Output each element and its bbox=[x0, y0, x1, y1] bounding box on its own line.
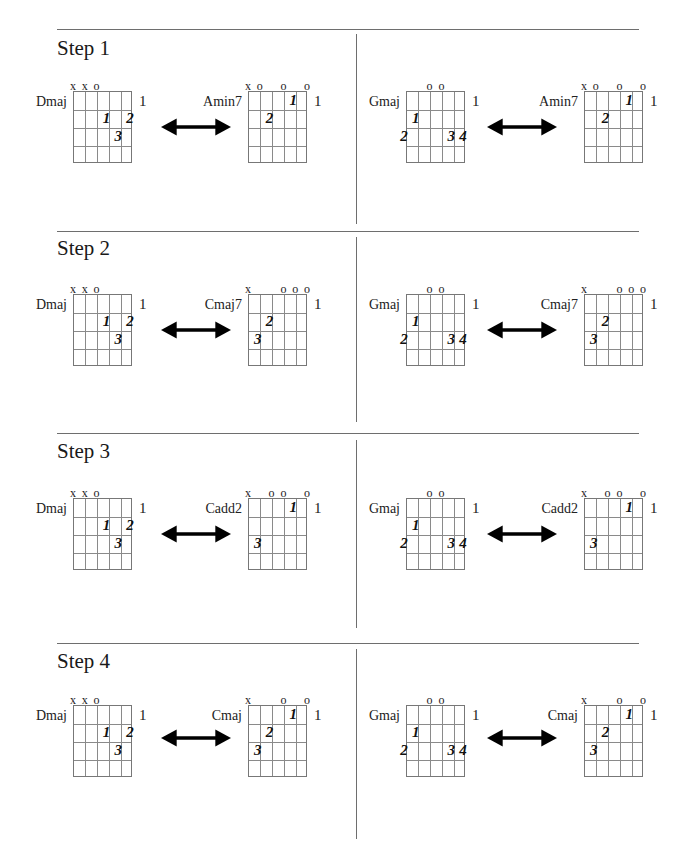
fret-line bbox=[585, 553, 642, 554]
open-string-marker: o bbox=[438, 487, 444, 499]
fret-line bbox=[249, 760, 306, 761]
fret-line bbox=[249, 110, 306, 111]
fret-line bbox=[585, 146, 642, 147]
fret-line bbox=[407, 331, 464, 332]
finger-number: 2 bbox=[266, 110, 274, 126]
finger-number: 3 bbox=[254, 331, 262, 347]
finger-number: 3 bbox=[590, 331, 598, 347]
open-string-marker: o bbox=[427, 283, 433, 295]
fret-line bbox=[407, 535, 464, 536]
open-string-marker: o bbox=[280, 694, 286, 706]
finger-number: 3 bbox=[254, 742, 262, 758]
muted-string-marker: x bbox=[581, 487, 587, 499]
open-string-marker: o bbox=[304, 487, 310, 499]
fretboard-grid bbox=[584, 705, 643, 777]
fret-line bbox=[585, 313, 642, 314]
muted-string-marker: x bbox=[581, 80, 587, 92]
fretboard-grid bbox=[584, 498, 643, 570]
fret-line bbox=[249, 146, 306, 147]
section-divider-step-4 bbox=[57, 643, 639, 644]
fret-line bbox=[407, 128, 464, 129]
muted-string-marker: x bbox=[82, 283, 88, 295]
muted-string-marker: x bbox=[70, 487, 76, 499]
fretboard-grid bbox=[248, 705, 307, 777]
fret-position-number: 1 bbox=[472, 707, 480, 723]
open-string-marker: o bbox=[304, 80, 310, 92]
open-string-marker: o bbox=[616, 283, 622, 295]
step-3-title: Step 3 bbox=[57, 439, 110, 463]
finger-number: 1 bbox=[625, 499, 633, 515]
open-string-marker: o bbox=[605, 487, 611, 499]
fret-line bbox=[74, 349, 131, 350]
double-headed-arrow-icon bbox=[161, 728, 231, 748]
finger-number: 2 bbox=[126, 517, 134, 533]
chord-name: Gmaj bbox=[369, 708, 400, 724]
finger-number: 1 bbox=[289, 706, 297, 722]
finger-number: 1 bbox=[103, 110, 111, 126]
fret-line bbox=[74, 146, 131, 147]
chord-name: Cmaj bbox=[212, 708, 242, 724]
fret-line bbox=[249, 128, 306, 129]
finger-number: 2 bbox=[602, 313, 610, 329]
fretboard-grid bbox=[73, 498, 132, 570]
finger-number: 1 bbox=[412, 110, 420, 126]
open-string-marker: o bbox=[640, 283, 646, 295]
double-headed-arrow-icon bbox=[161, 524, 231, 544]
fret-line bbox=[249, 517, 306, 518]
finger-number: 1 bbox=[289, 499, 297, 515]
fret-position-number: 1 bbox=[139, 296, 147, 312]
double-headed-arrow-icon bbox=[161, 117, 231, 137]
open-string-marker: o bbox=[269, 487, 275, 499]
fret-line bbox=[407, 760, 464, 761]
column-divider-step-2 bbox=[356, 237, 357, 422]
fret-position-number: 1 bbox=[314, 296, 322, 312]
chord-name: Cmaj bbox=[548, 708, 578, 724]
finger-number: 3 bbox=[447, 535, 455, 551]
fret-line bbox=[249, 349, 306, 350]
open-string-marker: o bbox=[616, 487, 622, 499]
finger-number: 2 bbox=[126, 110, 134, 126]
fret-position-number: 1 bbox=[472, 93, 480, 109]
chord-name: Dmaj bbox=[36, 297, 67, 313]
fretboard-grid bbox=[584, 294, 643, 366]
muted-string-marker: x bbox=[70, 80, 76, 92]
finger-number: 2 bbox=[266, 313, 274, 329]
open-string-marker: o bbox=[304, 694, 310, 706]
finger-number: 1 bbox=[412, 517, 420, 533]
open-string-marker: o bbox=[94, 694, 100, 706]
muted-string-marker: x bbox=[245, 283, 251, 295]
fret-position-number: 1 bbox=[472, 296, 480, 312]
muted-string-marker: x bbox=[245, 694, 251, 706]
column-divider-step-4 bbox=[356, 649, 357, 839]
open-string-marker: o bbox=[628, 283, 634, 295]
fret-line bbox=[74, 535, 131, 536]
fret-line bbox=[585, 517, 642, 518]
open-string-marker: o bbox=[427, 80, 433, 92]
open-string-marker: o bbox=[640, 694, 646, 706]
finger-number: 3 bbox=[447, 128, 455, 144]
double-headed-arrow-icon bbox=[487, 728, 557, 748]
open-string-marker: o bbox=[292, 283, 298, 295]
fret-line bbox=[585, 110, 642, 111]
double-headed-arrow-icon bbox=[487, 320, 557, 340]
finger-number: 2 bbox=[602, 110, 610, 126]
section-divider-step-1 bbox=[57, 29, 639, 30]
chord-name: Gmaj bbox=[369, 94, 400, 110]
muted-string-marker: x bbox=[82, 80, 88, 92]
fret-line bbox=[74, 331, 131, 332]
fret-position-number: 1 bbox=[314, 707, 322, 723]
fret-line bbox=[74, 553, 131, 554]
double-headed-arrow-icon bbox=[487, 117, 557, 137]
open-string-marker: o bbox=[438, 694, 444, 706]
finger-number: 1 bbox=[412, 724, 420, 740]
chord-name: Dmaj bbox=[36, 708, 67, 724]
finger-number: 1 bbox=[412, 313, 420, 329]
fret-position-number: 1 bbox=[139, 707, 147, 723]
fret-line bbox=[74, 760, 131, 761]
fret-line bbox=[407, 349, 464, 350]
step-1-title: Step 1 bbox=[57, 36, 110, 60]
fret-line bbox=[407, 553, 464, 554]
step-2-title: Step 2 bbox=[57, 236, 110, 260]
finger-number: 4 bbox=[459, 128, 467, 144]
fret-line bbox=[585, 128, 642, 129]
